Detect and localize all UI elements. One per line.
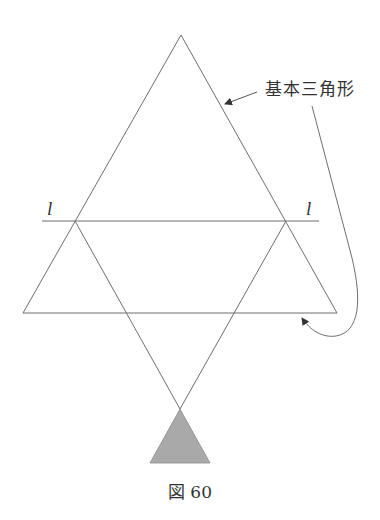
line-label-right: l [306,198,311,219]
crossing-line-right [180,221,286,409]
callout-label: 基本三角形 [265,79,355,99]
basic-triangle [23,35,337,313]
callout-arrow [225,92,257,104]
diagram-figure: l l 基本三角形 図 60 [0,0,380,520]
line-label-left: l [47,198,52,219]
figure-caption: 図 60 [168,482,212,502]
crossing-line-left [75,221,180,409]
shaded-triangle [150,409,210,463]
